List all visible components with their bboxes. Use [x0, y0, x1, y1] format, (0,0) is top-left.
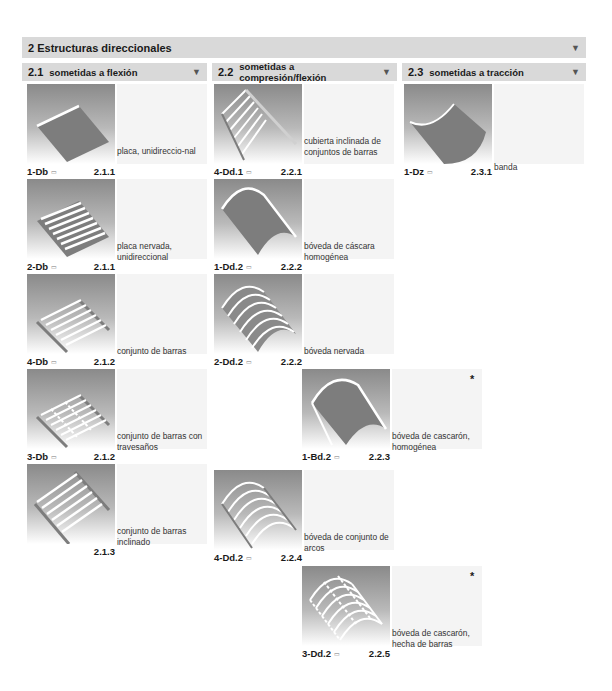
shell-vault-illustration: [214, 179, 302, 259]
structure-card[interactable]: 2-Dd.2▭ 2.2.2 bóveda nervada: [214, 274, 394, 366]
structure-description: banda: [494, 162, 586, 173]
structure-card[interactable]: * 3-Dd.2▭ 2.2.5 bóveda de cascarón, hech…: [302, 566, 482, 658]
shell-cascaron-illustration: [302, 369, 390, 449]
structure-card[interactable]: 4-Dd.1▭ 2.2.1 cubierta inclinada de conj…: [214, 84, 394, 176]
collapse-triangle-icon[interactable]: ▼: [571, 43, 580, 53]
structure-code: 2-Dd.2▭: [214, 356, 252, 367]
column-number: 2.2: [218, 66, 233, 78]
structure-card[interactable]: 4-Db▭ 2.1.2 conjunto de barras: [27, 274, 207, 366]
structure-card[interactable]: 1-Dd.2▭ 2.2.2 bóveda de cáscara homogéne…: [214, 179, 394, 271]
book-icon: ▭: [51, 169, 57, 175]
structure-description: bóveda de cascarón, homogénea: [392, 431, 484, 452]
structure-code: 1-Bd.2▭: [302, 451, 340, 462]
structure-description: bóveda nervada: [304, 346, 396, 357]
structure-code: 2-Db▭: [27, 261, 57, 272]
structure-ref: 2.1.1: [87, 261, 115, 272]
structure-code: 3-Dd.2▭: [302, 648, 340, 659]
book-icon: ▭: [246, 264, 252, 270]
book-icon: ▭: [246, 169, 252, 175]
structure-description: cubierta inclinada de conjuntos de barra…: [304, 136, 396, 157]
text-panel: [117, 274, 207, 354]
structure-card[interactable]: 3-Db▭ 2.1.2 conjunto de barras con trave…: [27, 369, 207, 461]
star-marker: *: [470, 373, 474, 385]
structure-description: conjunto de barras con travesaños: [117, 431, 209, 452]
book-icon: ▭: [246, 555, 252, 561]
book-icon: ▭: [51, 359, 57, 365]
collapse-triangle-icon[interactable]: ▼: [571, 67, 580, 77]
column-number: 2.1: [28, 66, 43, 78]
structure-code: 3-Db▭: [27, 451, 57, 462]
structure-card[interactable]: 2.1.3 conjunto de barras inclinado: [27, 464, 207, 556]
structure-description: conjunto de barras: [117, 346, 209, 357]
book-icon: ▭: [334, 651, 340, 657]
band-illustration: [404, 84, 492, 164]
grid-bars-illustration: [27, 369, 115, 449]
column-header-traccion[interactable]: 2.3 sometidas a tracción ▼: [402, 63, 586, 81]
book-icon: ▭: [246, 359, 252, 365]
structure-code: 1-Db▭: [27, 166, 57, 177]
structure-ref: 2.2.3: [362, 451, 390, 462]
text-panel: [494, 84, 584, 164]
structure-ref: 2.2.1: [274, 166, 302, 177]
inclined-roof-illustration: [214, 84, 302, 164]
structure-code: 4-Db▭: [27, 356, 57, 367]
structure-description: placa nervada, unidireccional: [117, 241, 209, 262]
structure-ref: 2.2.5: [362, 648, 390, 659]
structure-description: bóveda de cascarón, hecha de barras: [392, 628, 484, 649]
collapse-triangle-icon[interactable]: ▼: [192, 67, 201, 77]
book-icon: ▭: [427, 169, 433, 175]
book-icon: ▭: [51, 454, 57, 460]
structure-description: bóveda de cáscara homogénea: [304, 241, 396, 262]
column-label: sometidas a compresión/flexión: [239, 61, 382, 83]
structure-ref: 2.1.3: [87, 546, 115, 557]
structure-description: bóveda de conjunto de arcos: [304, 532, 396, 553]
structure-card[interactable]: 4-Dd.2▭ 2.2.4 bóveda de conjunto de arco…: [214, 470, 394, 562]
structure-description: placa, unidireccio-nal: [117, 146, 209, 157]
inclined-bars-illustration: [27, 464, 115, 544]
section-title: 2 Estructuras direccionales: [28, 42, 571, 54]
star-marker: *: [470, 570, 474, 582]
structure-ref: 2.3.1: [464, 166, 492, 177]
structure-ref: 2.1.2: [87, 356, 115, 367]
structure-ref: 2.1.2: [87, 451, 115, 462]
flat-plate-illustration: [27, 84, 115, 164]
section-header[interactable]: 2 Estructuras direccionales ▼: [22, 37, 586, 58]
structure-card[interactable]: 1-Dz▭ 2.3.1 banda: [404, 84, 584, 176]
column-label: sometidas a flexión: [49, 67, 192, 78]
column-label: sometidas a tracción: [429, 67, 571, 78]
collapse-triangle-icon[interactable]: ▼: [382, 67, 391, 77]
arch-assembly-illustration: [214, 470, 302, 550]
structure-ref: 2.2.2: [274, 356, 302, 367]
column-header-flexion[interactable]: 2.1 sometidas a flexión ▼: [22, 63, 207, 81]
structure-ref: 2.2.4: [274, 552, 302, 563]
structure-card[interactable]: 2-Db▭ 2.1.1 placa nervada, unidirecciona…: [27, 179, 207, 271]
structure-ref: 2.2.2: [274, 261, 302, 272]
column-header-compresion[interactable]: 2.2 sometidas a compresión/flexión ▼: [212, 63, 397, 81]
text-panel: [304, 274, 394, 354]
book-icon: ▭: [334, 454, 340, 460]
structure-code: 1-Dz▭: [404, 166, 433, 177]
ribbed-plate-illustration: [27, 179, 115, 259]
structure-code: 4-Dd.2▭: [214, 552, 252, 563]
bar-assembly-illustration: [27, 274, 115, 354]
structure-code: 1-Dd.2▭: [214, 261, 252, 272]
column-number: 2.3: [408, 66, 423, 78]
book-icon: ▭: [51, 264, 57, 270]
structure-description: conjunto de barras inclinado: [117, 526, 209, 547]
structure-ref: 2.1.1: [87, 166, 115, 177]
bar-lattice-vault-illustration: [302, 566, 390, 646]
structure-card[interactable]: 1-Db▭ 2.1.1 placa, unidireccio-nal: [27, 84, 207, 176]
structure-code: 4-Dd.1▭: [214, 166, 252, 177]
structure-card[interactable]: * 1-Bd.2▭ 2.2.3 bóveda de cascarón, homo…: [302, 369, 482, 461]
ribbed-vault-illustration: [214, 274, 302, 354]
